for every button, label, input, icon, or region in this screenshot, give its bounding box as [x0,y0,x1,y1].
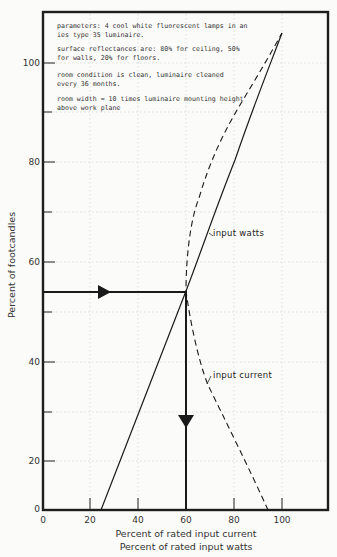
x-axis-label-watts: Percent of rated input watts [120,541,253,552]
note-line: room width = 10 times luminaire mounting… [57,95,244,103]
input-watts-curve [101,33,282,510]
input-current-label: input current [213,370,272,380]
input-current-leader [207,376,211,384]
note-line: parameters: 4 cool white fluorescent lam… [57,22,248,30]
arrow-down-icon [178,415,194,428]
note-line: for walls, 20% for floors. [57,54,160,62]
x-axis-label-current: Percent of rated input current [115,528,256,539]
chart: 100 80 60 40 20 0 0 20 40 60 80 100 Perc… [0,0,337,557]
y-tick-label: 80 [29,157,41,167]
y-tick-label: 60 [29,257,41,267]
note-line: room condition is clean, luminaire clean… [57,71,224,79]
note-line: every 36 months. [57,80,121,88]
x-tick-label: 100 [273,515,290,525]
x-tick-label: 80 [228,515,240,525]
note-line: above work plane [57,104,121,112]
note-line: ies type 35 luminaire. [57,31,144,39]
y-tick-label: 0 [34,504,40,514]
x-tick-label: 0 [40,515,46,525]
y-tick-label: 40 [29,357,41,367]
y-tick-label: 20 [29,456,41,466]
parameter-notes: parameters: 4 cool white fluorescent lam… [57,22,248,112]
arrow-right-icon [98,285,111,299]
input-watts-label: input watts [213,228,264,238]
x-tick-label: 20 [84,515,96,525]
y-ticks [43,63,55,461]
y-axis-label: Percent of footcandles [6,212,17,318]
x-tick-label: 60 [180,515,192,525]
y-tick-label: 100 [23,58,40,68]
note-line: surface reflectances are: 80% for ceilin… [57,45,240,53]
x-tick-label: 40 [132,515,144,525]
